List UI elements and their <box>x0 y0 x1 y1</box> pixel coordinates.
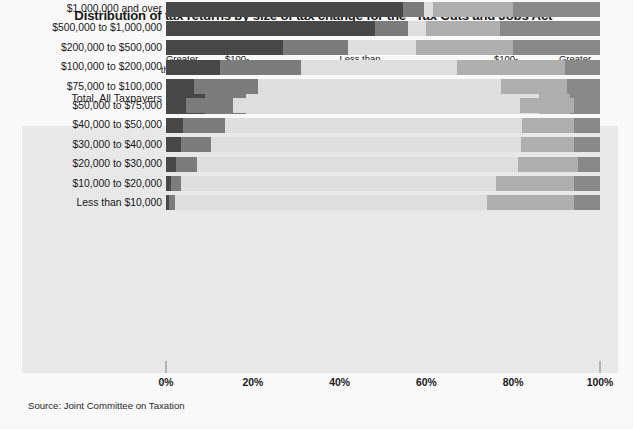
x-axis-tick-label: 80% <box>503 377 524 388</box>
segment-increase-100-500 <box>518 157 579 172</box>
segment-decrease-gt500 <box>166 137 181 152</box>
segment-no-change <box>301 60 457 75</box>
segment-increase-gt500 <box>574 195 600 210</box>
segment-increase-gt500 <box>565 60 600 75</box>
x-axis-tickmark <box>599 361 601 373</box>
segment-increase-100-500 <box>501 79 566 94</box>
bracket-row: $20,000 to $30,000 <box>0 155 633 174</box>
bracket-row-label: $30,000 to $40,000 <box>30 139 162 150</box>
segment-no-change <box>181 176 496 191</box>
segment-decrease-gt500 <box>166 21 375 36</box>
bracket-bar-track <box>166 157 600 172</box>
bracket-row: $40,000 to $50,000 <box>0 116 633 135</box>
segment-increase-gt500 <box>574 137 600 152</box>
segment-decrease-100-500 <box>283 40 348 55</box>
bracket-row-label: $1,000,000 and over <box>30 3 162 14</box>
segment-increase-gt500 <box>513 2 600 17</box>
segment-increase-100-500 <box>520 98 574 113</box>
bracket-row-label: $10,000 to $20,000 <box>30 178 162 189</box>
segment-decrease-100-500 <box>375 21 408 36</box>
source-note: Source: Joint Committee on Taxation <box>28 400 185 411</box>
bracket-row-label: $75,000 to $100,000 <box>30 81 162 92</box>
bracket-row: $75,000 to $100,000 <box>0 78 633 97</box>
segment-decrease-100-500 <box>186 98 234 113</box>
segment-no-change <box>225 118 522 133</box>
segment-increase-gt500 <box>500 21 600 36</box>
segment-increase-gt500 <box>578 157 600 172</box>
segment-decrease-gt500 <box>166 118 183 133</box>
x-axis-tick-label: 40% <box>329 377 350 388</box>
bracket-row-label: $100,000 to $200,000 <box>30 61 162 72</box>
segment-increase-100-500 <box>487 195 574 210</box>
bracket-row: Less than $10,000 <box>0 194 633 213</box>
segment-decrease-gt500 <box>166 157 176 172</box>
segment-decrease-100-500 <box>183 118 224 133</box>
bracket-bar-track <box>166 98 600 113</box>
bracket-row: $1,000,000 and over <box>0 0 633 19</box>
segment-decrease-100-500 <box>403 2 424 17</box>
bracket-row-label: Less than $10,000 <box>30 197 162 208</box>
x-axis-tick-label: 0% <box>158 377 173 388</box>
segment-decrease-100-500 <box>171 176 181 191</box>
bracket-bar-track <box>166 40 600 55</box>
segment-no-change <box>211 137 521 152</box>
bracket-row-label: $50,000 to $75,000 <box>30 100 162 111</box>
x-axis-tick-label: 60% <box>416 377 437 388</box>
segment-increase-gt500 <box>574 98 600 113</box>
segment-no-change <box>258 79 501 94</box>
segment-decrease-gt500 <box>166 79 194 94</box>
segment-increase-gt500 <box>513 40 600 55</box>
bracket-rows: $1,000,000 and over$500,000 to $1,000,00… <box>0 0 633 213</box>
segment-no-change <box>424 2 433 17</box>
bracket-row: $10,000 to $20,000 <box>0 175 633 194</box>
bracket-row: $500,000 to $1,000,000 <box>0 19 633 38</box>
bracket-row: $100,000 to $200,000 <box>0 58 633 77</box>
segment-decrease-gt500 <box>166 60 220 75</box>
bracket-bar-track <box>166 2 600 17</box>
segment-increase-100-500 <box>496 176 574 191</box>
bracket-row-label: $40,000 to $50,000 <box>30 119 162 130</box>
bracket-bar-track <box>166 195 600 210</box>
bracket-bar-track <box>166 79 600 94</box>
segment-increase-100-500 <box>522 118 574 133</box>
segment-decrease-100-500 <box>220 60 300 75</box>
segment-decrease-100-500 <box>194 79 258 94</box>
x-axis: 0%20%40%60%80%100% <box>0 373 633 397</box>
bracket-bar-track <box>166 60 600 75</box>
segment-no-change <box>197 157 517 172</box>
chart-figure: Distribution of tax returns by size of t… <box>0 0 633 429</box>
segment-increase-100-500 <box>433 2 513 17</box>
segment-increase-100-500 <box>426 21 500 36</box>
bracket-row: $30,000 to $40,000 <box>0 136 633 155</box>
segment-decrease-gt500 <box>166 40 283 55</box>
bracket-bar-track <box>166 137 600 152</box>
bracket-bar-track <box>166 118 600 133</box>
bracket-bar-track <box>166 21 600 36</box>
bracket-row: $200,000 to $500,000 <box>0 39 633 58</box>
segment-no-change <box>175 195 487 210</box>
x-axis-tick-label: 100% <box>587 377 614 388</box>
bracket-row-label: $500,000 to $1,000,000 <box>30 22 162 33</box>
segment-increase-gt500 <box>574 176 600 191</box>
bracket-row-label: $20,000 to $30,000 <box>30 158 162 169</box>
segment-increase-100-500 <box>457 60 566 75</box>
segment-no-change <box>233 98 519 113</box>
segment-increase-gt500 <box>567 79 600 94</box>
bracket-bar-track <box>166 176 600 191</box>
segment-increase-100-500 <box>416 40 513 55</box>
segment-decrease-gt500 <box>166 98 186 113</box>
segment-no-change <box>348 40 416 55</box>
x-axis-tickmark <box>165 361 167 373</box>
bracket-row-label: $200,000 to $500,000 <box>30 42 162 53</box>
segment-decrease-100-500 <box>176 157 198 172</box>
segment-increase-100-500 <box>521 137 574 152</box>
segment-decrease-gt500 <box>166 2 403 17</box>
bracket-row: $50,000 to $75,000 <box>0 97 633 116</box>
segment-no-change <box>408 21 427 36</box>
x-axis-tick-label: 20% <box>242 377 263 388</box>
segment-increase-gt500 <box>574 118 600 133</box>
segment-decrease-100-500 <box>181 137 211 152</box>
